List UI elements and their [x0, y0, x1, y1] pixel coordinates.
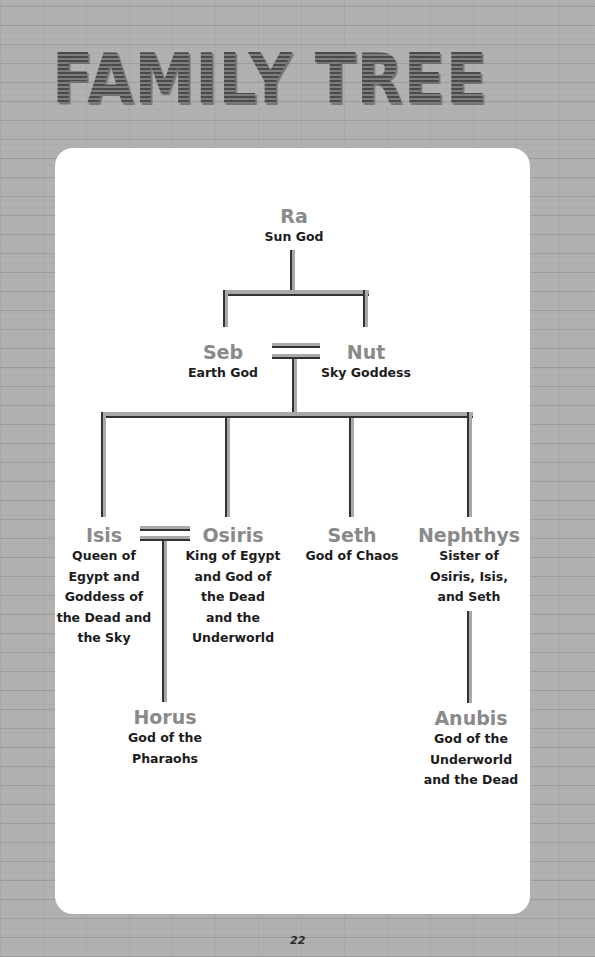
connector-to-seb	[223, 290, 228, 327]
name-seth: Seth	[296, 524, 408, 546]
desc-osiris-line-3: the Dead	[178, 587, 288, 608]
name-horus: Horus	[110, 706, 220, 728]
desc-isis-line-4: the Dead and	[52, 608, 156, 629]
desc-horus-line-2: Pharaohs	[110, 749, 220, 770]
desc-ra: Sun God	[232, 227, 356, 248]
name-ra: Ra	[232, 205, 356, 227]
desc-osiris-line-5: Underworld	[178, 628, 288, 649]
name-osiris: Osiris	[178, 524, 288, 546]
connector-to-nut	[363, 290, 368, 327]
page-title: FAMILY TREE	[52, 44, 488, 114]
node-isis: Isis Queen of Egypt and Goddess of the D…	[52, 524, 156, 649]
connector-to-horus	[162, 541, 167, 702]
page-number: 22	[290, 934, 305, 947]
connector-ra-bar	[223, 290, 369, 296]
desc-osiris-line-4: and the	[178, 608, 288, 629]
connector-to-anubis	[467, 611, 472, 703]
desc-nephthys-line-3: and Seth	[412, 587, 526, 608]
desc-anubis-line-1: God of the	[415, 729, 527, 750]
node-osiris: Osiris King of Egypt and God of the Dead…	[178, 524, 288, 649]
connector-children-bar	[101, 412, 473, 418]
desc-isis-line-2: Egypt and	[52, 567, 156, 588]
node-ra: Ra Sun God	[232, 205, 356, 248]
desc-nut: Sky Goddess	[310, 363, 422, 384]
connector-seb-nut-stem	[292, 359, 297, 415]
desc-anubis-line-2: Underworld	[415, 750, 527, 771]
node-anubis: Anubis God of the Underworld and the Dea…	[415, 707, 527, 791]
desc-isis-line-1: Queen of	[52, 546, 156, 567]
name-isis: Isis	[52, 524, 156, 546]
node-nephthys: Nephthys Sister of Osiris, Isis, and Set…	[412, 524, 526, 608]
desc-isis-line-3: Goddess of	[52, 587, 156, 608]
node-nut: Nut Sky Goddess	[310, 341, 422, 384]
connector-to-nephthys	[467, 412, 472, 517]
connector-to-isis	[101, 412, 106, 517]
connector-ra-stem	[290, 250, 295, 293]
node-seth: Seth God of Chaos	[296, 524, 408, 567]
connector-to-seth	[349, 418, 354, 517]
desc-osiris-line-2: and God of	[178, 567, 288, 588]
desc-nephthys-line-2: Osiris, Isis,	[412, 567, 526, 588]
name-anubis: Anubis	[415, 707, 527, 729]
desc-isis-line-5: the Sky	[52, 628, 156, 649]
desc-seth: God of Chaos	[296, 546, 408, 567]
name-seb: Seb	[168, 341, 278, 363]
connector-to-osiris	[225, 418, 230, 517]
name-nephthys: Nephthys	[412, 524, 526, 546]
desc-seb: Earth God	[168, 363, 278, 384]
desc-osiris-line-1: King of Egypt	[178, 546, 288, 567]
node-horus: Horus God of the Pharaohs	[110, 706, 220, 769]
desc-nephthys-line-1: Sister of	[412, 546, 526, 567]
desc-horus-line-1: God of the	[110, 728, 220, 749]
desc-anubis-line-3: and the Dead	[415, 770, 527, 791]
node-seb: Seb Earth God	[168, 341, 278, 384]
name-nut: Nut	[310, 341, 422, 363]
